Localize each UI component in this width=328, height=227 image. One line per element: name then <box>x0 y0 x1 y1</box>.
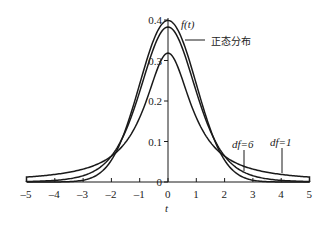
x-tick-label: 2 <box>222 188 228 200</box>
x-tick-label: –1 <box>133 188 145 200</box>
x-axis-title: t <box>165 202 169 214</box>
x-tick-label: –3 <box>76 188 89 200</box>
x-tick-label: –5 <box>20 188 33 200</box>
x-tick-label: 1 <box>193 188 199 200</box>
df6-label: df=6 <box>232 138 254 150</box>
x-tick-label: 0 <box>165 188 171 200</box>
x-tick-label: 3 <box>250 188 256 200</box>
x-tick-label: 5 <box>307 188 313 200</box>
x-tick-label: 4 <box>278 188 284 200</box>
y-tick-label: 0 <box>157 176 163 188</box>
t-distribution-chart: –5–4–3–2–1012345 00.10.20.30.4 f(t) t 正态… <box>0 0 328 227</box>
x-tick-label: –2 <box>104 188 116 200</box>
y-axis-ticks: 00.10.20.30.4 <box>148 14 168 188</box>
y-tick-label: 0.4 <box>148 14 162 26</box>
y-tick-label: 0.3 <box>148 55 162 67</box>
y-tick-label: 0.2 <box>148 95 162 107</box>
x-tick-label: –4 <box>48 188 61 200</box>
y-axis-title: f(t) <box>181 18 195 31</box>
normal-distribution-label: 正态分布 <box>211 35 251 47</box>
df1-label: df=1 <box>270 136 291 148</box>
y-tick-label: 0.1 <box>148 136 162 148</box>
